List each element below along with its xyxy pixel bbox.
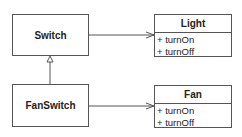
method-turnoff: + turnOff	[157, 117, 229, 129]
class-switch-name: Switch	[34, 30, 66, 41]
class-fanswitch-name: FanSwitch	[25, 100, 75, 111]
inheritance-triangle-icon	[47, 56, 53, 62]
class-fan-methods: + turnOn + turnOff	[155, 104, 231, 130]
class-switch[interactable]: Switch	[12, 14, 89, 56]
method-turnon: + turnOn	[157, 34, 229, 46]
class-light[interactable]: Light + turnOn + turnOff	[154, 14, 232, 57]
class-light-methods: + turnOn + turnOff	[155, 33, 231, 59]
class-fan-name: Fan	[155, 86, 231, 104]
method-turnon: + turnOn	[157, 105, 229, 117]
class-fanswitch[interactable]: FanSwitch	[12, 84, 89, 127]
method-turnoff: + turnOff	[157, 46, 229, 58]
class-light-name: Light	[155, 15, 231, 33]
class-fan[interactable]: Fan + turnOn + turnOff	[154, 85, 232, 128]
